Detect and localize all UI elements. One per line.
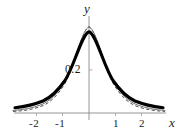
y-tick-label-02: 0.2 xyxy=(65,64,81,76)
bell-curve-plot: y x 0.2 -2 -1 1 2 xyxy=(0,0,185,136)
x-tick-label-pos2: 2 xyxy=(139,118,145,129)
y-axis-label: y xyxy=(84,2,90,15)
x-tick-label-pos1: 1 xyxy=(113,118,119,129)
plot-canvas xyxy=(0,0,185,136)
x-tick-label-neg1: -1 xyxy=(55,118,65,129)
x-tick-label-neg2: -2 xyxy=(29,118,39,129)
x-axis-label: x xyxy=(169,116,175,129)
